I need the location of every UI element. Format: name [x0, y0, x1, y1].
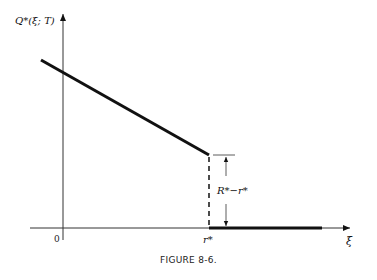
y-axis-label: Q*(ξ; T) — [15, 15, 55, 26]
origin-label: 0 — [54, 234, 60, 244]
r-star-label: r* — [203, 234, 213, 245]
figure-caption: FIGURE 8-6. — [0, 255, 377, 265]
x-axis-label: ξ — [346, 235, 353, 248]
figure-diagram: Q*(ξ; T) ξ 0 r* R*−r* — [0, 0, 377, 280]
descending-segment — [41, 60, 209, 155]
gap-label: R*−r* — [216, 185, 248, 196]
